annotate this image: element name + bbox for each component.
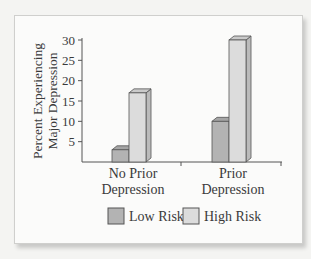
legend-label-low-risk: Low Risk [129,209,184,224]
bar-high-risk [229,36,251,162]
y-tick-label: 30 [62,33,75,48]
bars [112,36,251,162]
y-tick-label: 25 [62,53,75,68]
y-tick-label: 10 [62,114,75,129]
category-label-prior: Prior Depression [202,166,265,197]
svg-text:No Prior: No Prior [109,166,158,181]
y-tick-label: 5 [69,134,76,149]
legend: Low Risk High Risk [108,208,261,224]
legend-swatch-low-risk [108,208,124,224]
svg-text:Depression: Depression [102,182,165,197]
bar-chart: Percent Experiencing Major Depression 51… [0,0,311,259]
y-axis-ticks: 51015202530 [62,33,82,150]
y-axis-title: Percent Experiencing Major Depression [30,43,60,159]
y-axis-title-line-2: Major Depression [45,52,60,149]
legend-swatch-high-risk [183,208,199,224]
category-label-no-prior: No Prior Depression [102,166,165,197]
y-tick-label: 15 [62,94,75,109]
y-axis-title-line-1: Percent Experiencing [30,43,45,159]
y-tick-label: 20 [62,73,75,88]
legend-label-high-risk: High Risk [204,209,261,224]
svg-text:Depression: Depression [202,182,265,197]
svg-text:Prior: Prior [219,166,247,181]
bar-high-risk [129,89,151,162]
